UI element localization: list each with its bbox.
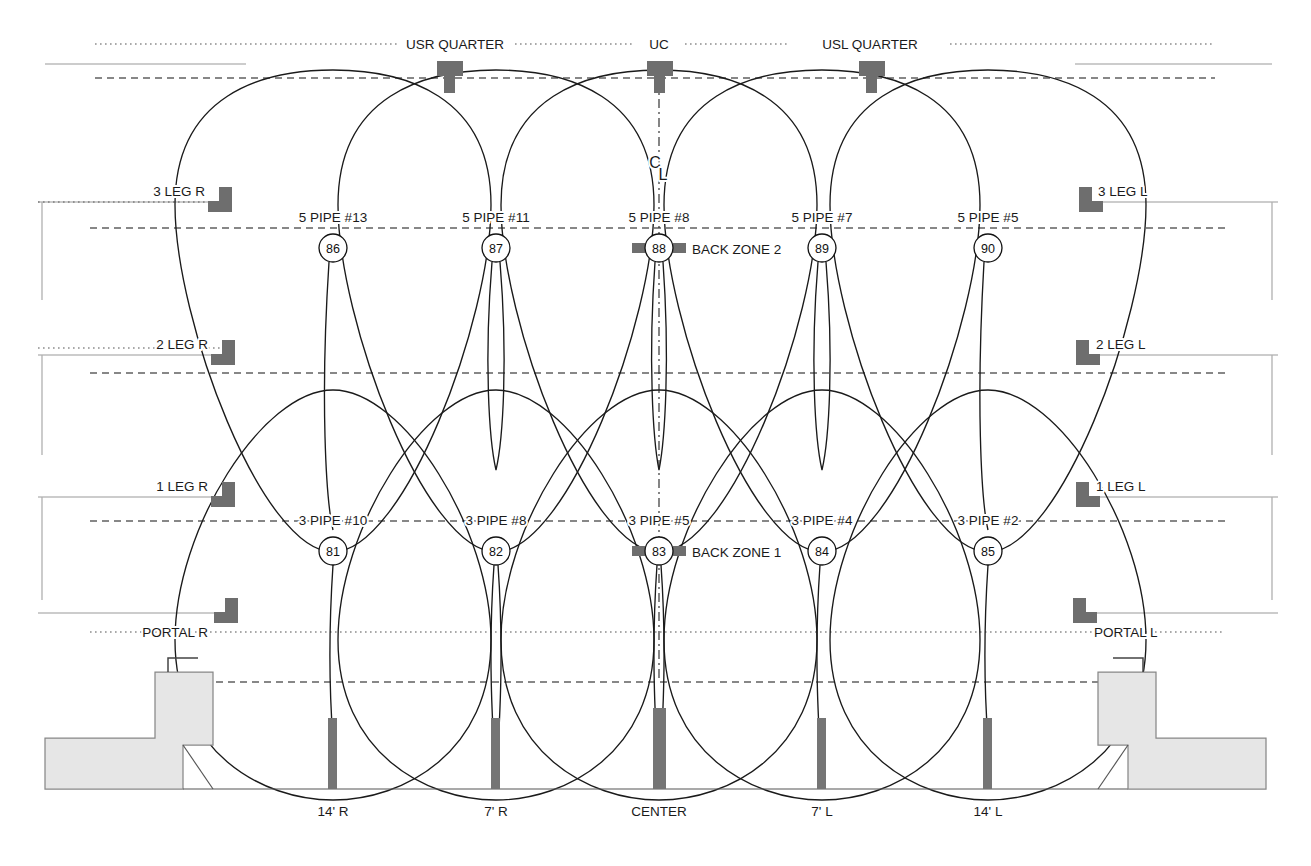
label-pos-14r: 14' R [317, 804, 348, 819]
label-2-leg-r: 2 LEG R [156, 337, 208, 352]
fixture-uc [647, 61, 673, 93]
zone2-tab-right [673, 243, 686, 253]
label-back-zone-1: BACK ZONE 1 [692, 545, 781, 560]
label-pipe-5-7: 5 PIPE #7 [792, 210, 853, 225]
number-84: 84 [815, 545, 829, 559]
bar-center [653, 708, 666, 789]
bracket-portal-r [214, 598, 238, 623]
label-pipe-5-5: 5 PIPE #5 [958, 210, 1019, 225]
zone1-tab-left [632, 546, 645, 556]
centerline-l: L [659, 166, 668, 183]
number-82: 82 [489, 545, 503, 559]
label-portal-l: PORTAL L [1094, 625, 1158, 640]
label-pipe-3-2: 3 PIPE #2 [958, 513, 1019, 528]
position-bars [328, 708, 992, 789]
label-pipe-3-5: 3 PIPE #5 [629, 513, 690, 528]
label-back-zone-2: BACK ZONE 2 [692, 242, 781, 257]
label-1-leg-r: 1 LEG R [156, 479, 208, 494]
bracket-3-leg-r [208, 187, 232, 212]
bracket-2-leg-r [211, 340, 235, 365]
label-2-leg-l: 2 LEG L [1096, 337, 1146, 352]
label-3-leg-l: 3 LEG L [1098, 184, 1148, 199]
label-1-leg-l: 1 LEG L [1096, 479, 1146, 494]
leg-brackets-left [1073, 187, 1103, 623]
label-pos-7l: 7' L [811, 804, 833, 819]
fixture-usr-quarter [437, 61, 463, 93]
bar-7r [491, 718, 500, 789]
label-pipe-5-13: 5 PIPE #13 [299, 210, 367, 225]
stage-deck-left [1098, 658, 1266, 789]
number-90: 90 [981, 242, 995, 256]
label-pos-7r: 7' R [484, 804, 508, 819]
beam-cones-upper [175, 70, 1146, 552]
label-pos-center: CENTER [631, 804, 687, 819]
label-pos-14l: 14' L [974, 804, 1003, 819]
bar-14r [328, 718, 337, 789]
number-83: 83 [652, 545, 666, 559]
label-pipe-3-4: 3 PIPE #4 [792, 513, 853, 528]
number-88: 88 [652, 242, 666, 256]
stage-deck-right [45, 658, 1128, 789]
label-portal-r: PORTAL R [142, 625, 208, 640]
bar-7l [817, 718, 826, 789]
number-89: 89 [815, 242, 829, 256]
label-pipe-5-8: 5 PIPE #8 [629, 210, 690, 225]
number-86: 86 [326, 242, 340, 256]
zone2-tab-left [632, 243, 645, 253]
label-pipe-3-10: 3 PIPE #10 [299, 513, 367, 528]
beam-plot-svg: C L [0, 0, 1311, 866]
label-usr-quarter: USR QUARTER [406, 37, 504, 52]
zone1-tab-right [673, 546, 686, 556]
number-85: 85 [981, 545, 995, 559]
number-81: 81 [326, 545, 340, 559]
bracket-portal-l [1073, 598, 1097, 623]
number-87: 87 [489, 242, 503, 256]
label-pipe-3-8: 3 PIPE #8 [466, 513, 527, 528]
label-uc: UC [649, 37, 669, 52]
leg-brackets-right [208, 187, 238, 623]
diagram-canvas: C L [0, 0, 1311, 866]
label-pipe-5-11: 5 PIPE #11 [462, 210, 529, 225]
bar-14l [983, 718, 992, 789]
label-3-leg-r: 3 LEG R [153, 184, 205, 199]
label-usl-quarter: USL QUARTER [822, 37, 918, 52]
top-fixture-icons [437, 61, 885, 93]
